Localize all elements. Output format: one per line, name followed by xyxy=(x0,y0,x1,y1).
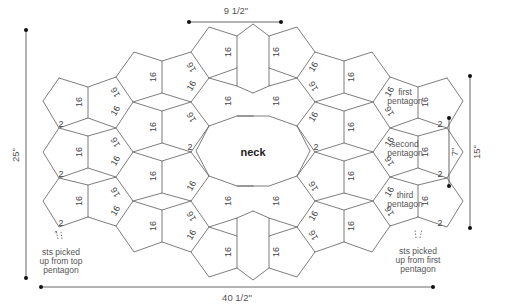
dimension-left: 25" xyxy=(10,28,28,280)
stitch-count-right-22: 16 xyxy=(271,196,281,206)
pentagon-edge-left-9 xyxy=(162,102,209,152)
stitch-count-right-12: 16 xyxy=(346,221,356,231)
pickup-count-right-0: 2 xyxy=(437,119,442,129)
stitch-count-right-15: 16 xyxy=(307,110,321,124)
stitch-count-left-13: 16 xyxy=(185,60,199,74)
stitch-count-left-15: 16 xyxy=(185,110,199,124)
stitch-count-left-12: 16 xyxy=(148,221,158,231)
pentagon-edge-left-18 xyxy=(209,116,253,126)
pentagon-edge-right-14 xyxy=(315,201,344,210)
dimension-top: 9 1/2" xyxy=(187,5,283,24)
right-pickup-arrow xyxy=(415,229,422,238)
pentagon-edge-right-15 xyxy=(297,201,344,252)
stitch-count-right-10: 16 xyxy=(346,122,356,132)
stitch-count-left-1: 16 xyxy=(74,147,84,157)
right-outer-height-label: 15" xyxy=(471,145,482,159)
right-note-line3: pentagon xyxy=(400,264,436,274)
pentagon-edge-right-20 xyxy=(297,126,310,176)
pentagon-edge-right-17 xyxy=(269,68,297,86)
pickup-count-left-0: 2 xyxy=(58,119,63,129)
pentagon-edge-right-24 xyxy=(253,211,269,218)
stitch-count-left-14: 16 xyxy=(185,79,199,93)
stitch-count-right-14: 16 xyxy=(307,79,321,93)
pickup-count-left-3: 2 xyxy=(187,142,192,152)
pentagon-edge-left-12 xyxy=(162,152,209,201)
pentagon-edge-right-19 xyxy=(253,176,297,186)
stitch-count-left-8: 16 xyxy=(109,204,123,218)
stitch-count-left-21: 16 xyxy=(223,96,233,106)
pentagon-edge-left-20 xyxy=(196,126,209,176)
stitch-count-left-11: 16 xyxy=(148,171,158,181)
stitch-count-right-19: 16 xyxy=(271,47,281,57)
pentagon-edge-left-22 xyxy=(209,218,237,236)
stitch-count-left-18: 16 xyxy=(185,228,199,242)
left-height-label: 25" xyxy=(10,148,21,162)
stitch-count-right-20: 16 xyxy=(271,247,281,257)
dimension-right-inner: 7" xyxy=(447,116,460,188)
stitch-count-left-7: 16 xyxy=(109,185,123,199)
pentagon-edge-left-24 xyxy=(237,211,253,218)
pentagon-edge-center-1 xyxy=(237,268,269,280)
left-note-line3: pentagon xyxy=(43,265,79,275)
pentagon-edge-left-15 xyxy=(162,201,209,252)
pentagon-edge-right-9 xyxy=(297,102,344,152)
dimension-right-outer: 15" xyxy=(468,74,482,230)
pentagon-edge-left-8 xyxy=(162,102,191,111)
dimension-bottom: 40 1/2" xyxy=(39,285,435,303)
pentagon-edge-left-3 xyxy=(88,168,116,185)
stitch-count-left-22: 16 xyxy=(223,196,233,206)
stitch-count-left-20: 16 xyxy=(223,247,233,257)
second-pentagon-label-line2: pentagon xyxy=(387,148,423,158)
stitch-count-right-16: 16 xyxy=(307,179,321,193)
pentagon-edge-right-22 xyxy=(269,218,297,236)
pentagon-edge-right-18 xyxy=(253,116,297,126)
top-width-label: 9 1/2" xyxy=(224,5,249,16)
pentagon-edge-left-23 xyxy=(237,86,253,93)
stitch-count-left-5: 16 xyxy=(109,135,123,149)
pentagon-edge-right-12 xyxy=(297,152,344,201)
stitch-count-right-9: 16 xyxy=(346,72,356,82)
pentagon-edge-left-17 xyxy=(209,68,237,86)
pentagon-edge-left-14 xyxy=(162,201,191,210)
stitch-count-right-11: 16 xyxy=(346,171,356,181)
stitch-count-left-10: 16 xyxy=(148,122,158,132)
stitch-count-left-16: 16 xyxy=(185,179,199,193)
pickup-count-right-1: 2 xyxy=(437,169,442,179)
stitch-count-right-4: 16 xyxy=(383,104,397,118)
pickup-count-right-3: 2 xyxy=(313,142,318,152)
pentagon-edge-left-2 xyxy=(88,118,116,136)
third-pentagon-label-line2: pentagon xyxy=(387,199,423,209)
stitch-count-left-9: 16 xyxy=(148,72,158,82)
pentagon-edge-left-4 xyxy=(88,77,133,226)
stitch-count-left-17: 16 xyxy=(185,209,199,223)
left-pickup-arrow xyxy=(55,231,63,239)
pickup-count-left-2: 2 xyxy=(58,218,63,228)
neck-label: neck xyxy=(240,146,266,158)
first-pentagon-label-line2: pentagon xyxy=(387,96,423,106)
stitch-count-right-7: 16 xyxy=(383,185,397,199)
right-inner-height-label: 7" xyxy=(449,148,460,157)
pentagon-edge-center-0 xyxy=(237,24,269,36)
pentagon-edge-right-6 xyxy=(297,52,344,102)
stitch-count-left-2: 16 xyxy=(74,196,84,206)
pentagon-edge-left-19 xyxy=(209,176,253,186)
stitch-count-left-6: 16 xyxy=(109,154,123,168)
pentagon-edge-right-23 xyxy=(253,86,269,93)
bottom-width-label: 40 1/2" xyxy=(222,292,252,303)
pentagon-edge-right-8 xyxy=(315,102,344,111)
pentagon-edge-left-11 xyxy=(162,152,191,161)
stitch-count-right-18: 16 xyxy=(307,228,321,242)
pentagon-edge-right-2 xyxy=(390,118,418,136)
stitch-count-left-3: 16 xyxy=(109,85,123,99)
pentagon-schematic: 1616161616161616161616161616161616161616… xyxy=(0,0,506,307)
pentagon-edge-left-6 xyxy=(162,52,209,102)
pentagon-edge-right-3 xyxy=(390,168,418,185)
stitch-count-left-4: 16 xyxy=(109,104,123,118)
stitch-count-right-21: 16 xyxy=(271,96,281,106)
stitch-count-left-19: 16 xyxy=(223,47,233,57)
pentagon-edge-right-11 xyxy=(315,152,344,161)
stitch-count-left-0: 16 xyxy=(74,97,84,107)
pickup-count-right-2: 2 xyxy=(437,218,442,228)
pickup-count-left-1: 2 xyxy=(58,169,63,179)
